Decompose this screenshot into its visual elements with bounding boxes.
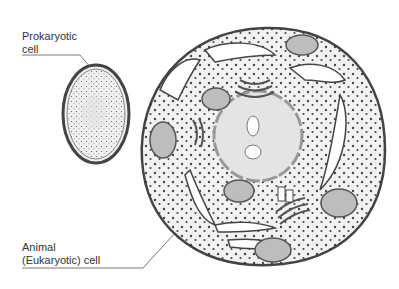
eukaryotic-cell xyxy=(142,28,385,265)
cell-diagram xyxy=(0,0,399,289)
prokaryotic-cell xyxy=(63,65,129,163)
